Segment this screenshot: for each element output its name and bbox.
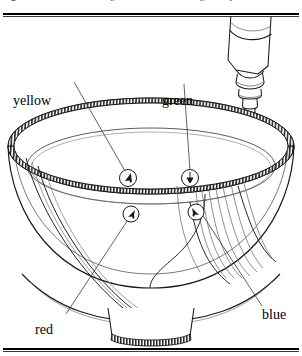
label-green: green — [162, 94, 193, 108]
rule-bottom — [3, 348, 299, 350]
dye-tube-icon — [228, 16, 272, 113]
label-red: red — [35, 323, 53, 337]
marker-green — [182, 170, 199, 187]
label-blue: blue — [262, 308, 286, 322]
bowl-rim — [8, 98, 294, 194]
marker-red — [123, 206, 139, 222]
rule-top — [3, 13, 299, 15]
bowl-foot — [108, 308, 194, 346]
figure-caption: Figure 2.1 Colour mixing in a bowl of wa… — [0, 0, 302, 3]
figure-page: Figure 2.1 Colour mixing in a bowl of wa… — [0, 0, 302, 356]
figure-artwork: yellow green red blue — [0, 16, 302, 348]
rule-bottom-hairline — [3, 351, 299, 352]
marker-yellow — [120, 170, 137, 187]
marker-blue — [188, 204, 204, 220]
figure-caption-text: Colour mixing in a bowl of water using f… — [62, 0, 238, 1]
label-yellow: yellow — [13, 94, 51, 108]
figure-caption-number: Figure 2.1 — [3, 0, 43, 1]
